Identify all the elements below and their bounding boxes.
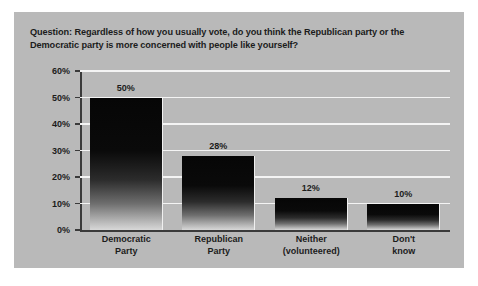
- x-axis-category-line: Don't: [358, 234, 451, 246]
- y-axis-tick-label: 60%: [28, 66, 70, 76]
- y-axis-tick: [75, 150, 80, 152]
- y-axis-tick: [75, 70, 80, 72]
- x-axis-category-line: (volunteered): [265, 246, 358, 258]
- bar[interactable]: 10%: [367, 204, 440, 231]
- y-axis-tick-label: 30%: [28, 146, 70, 156]
- x-axis-category-label: Don'tknow: [358, 234, 451, 257]
- x-axis-category-label: Neither(volunteered): [265, 234, 358, 257]
- x-axis-category-line: Democratic: [80, 234, 173, 246]
- bar-value-label: 12%: [275, 183, 347, 193]
- x-axis-category-line: Neither: [265, 234, 358, 246]
- x-axis-category-line: Party: [80, 246, 173, 258]
- x-axis-line: [80, 230, 450, 232]
- bar[interactable]: 50%: [90, 98, 163, 231]
- x-axis-category-line: Party: [173, 246, 266, 258]
- bar[interactable]: 12%: [275, 198, 348, 230]
- bar-value-label: 28%: [182, 141, 254, 151]
- chart-figure: Question: Regardless of how you usually …: [14, 12, 464, 268]
- y-axis-tick: [75, 229, 80, 231]
- x-axis-category-line: Republican: [173, 234, 266, 246]
- y-axis-tick-label: 10%: [28, 199, 70, 209]
- y-axis-tick-label: 50%: [28, 93, 70, 103]
- y-axis-tick-label: 20%: [28, 172, 70, 182]
- x-axis-category-label: DemocraticParty: [80, 234, 173, 257]
- x-axis-category-line: know: [358, 246, 451, 258]
- x-axis-category-label: RepublicanParty: [173, 234, 266, 257]
- y-axis-tick: [75, 176, 80, 178]
- chart-question-caption: Question: Regardless of how you usually …: [30, 26, 442, 52]
- y-axis-tick: [75, 203, 80, 205]
- bar[interactable]: 28%: [182, 156, 255, 230]
- y-axis-tick: [75, 97, 80, 99]
- y-axis-tick-label: 40%: [28, 119, 70, 129]
- gridline: [80, 70, 450, 72]
- y-axis-tick: [75, 123, 80, 125]
- y-axis-tick-label: 0%: [28, 225, 70, 235]
- plot-area: 50%DemocraticParty28%RepublicanParty12%N…: [80, 71, 450, 230]
- bar-value-label: 50%: [90, 83, 162, 93]
- bar-value-label: 10%: [367, 189, 439, 199]
